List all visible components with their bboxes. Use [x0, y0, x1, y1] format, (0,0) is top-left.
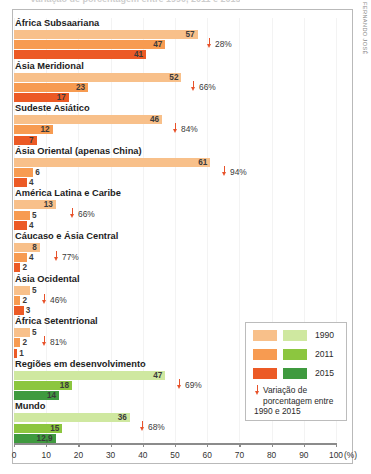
bar-value-label: 8 [32, 243, 37, 252]
delta-annotation: 66% [69, 208, 95, 220]
delta-annotation: 94% [221, 166, 247, 178]
bar [14, 263, 20, 272]
down-arrow-icon [206, 38, 213, 49]
chart-group: Ásia Ocidental52346% [0, 274, 371, 317]
bar-value-label: 46 [150, 115, 159, 124]
bar-value-label: 18 [60, 381, 69, 390]
group-label: Ásia Ocidental [15, 274, 80, 284]
bar-value-label: 5 [32, 286, 37, 295]
axis-tick [336, 443, 337, 447]
axis-tick-label: 30 [106, 450, 115, 460]
bar [14, 338, 20, 347]
axis-tick-label: 100 [329, 450, 343, 460]
delta-annotation: 84% [172, 123, 198, 135]
down-arrow-icon [41, 294, 48, 305]
axis-tick [46, 443, 47, 447]
delta-annotation: 77% [53, 251, 79, 263]
delta-annotation: 69% [176, 379, 202, 391]
down-arrow-icon [41, 336, 48, 347]
group-label: América Latina e Caribe [15, 188, 121, 198]
bar-value-label: 12,9 [37, 434, 53, 443]
bar [14, 168, 33, 177]
bar-value-label: 4 [29, 221, 34, 230]
bar [14, 221, 27, 230]
bar-value-label: 2 [22, 263, 27, 272]
chart-group: Sudeste Asiático4612784% [0, 103, 371, 146]
delta-value: 28% [215, 39, 232, 49]
bar-value-label: 17 [57, 93, 66, 102]
bar [14, 115, 162, 124]
axis-tick [304, 443, 305, 447]
delta-value: 81% [50, 337, 67, 347]
bar-value-label: 41 [134, 50, 143, 59]
legend-swatch-green [283, 330, 307, 341]
axis-tick-label: 50 [170, 450, 179, 460]
bar-value-label: 4 [29, 253, 34, 262]
bar-value-label: 6 [35, 168, 40, 177]
axis-tick-label: 40 [138, 450, 147, 460]
bar [14, 30, 198, 39]
legend-label: 2011 [315, 349, 333, 360]
legend-swatch-green [283, 368, 307, 379]
down-arrow-icon [176, 379, 183, 390]
bar [14, 40, 165, 49]
delta-annotation: 68% [139, 421, 165, 433]
delta-value: 66% [78, 209, 95, 219]
down-arrow-icon [139, 421, 146, 432]
bar-value-label: 15 [50, 424, 59, 433]
axis-tick-label: 70 [235, 450, 244, 460]
bar [14, 306, 24, 315]
chart-group: Ásia Oriental (apenas China)616494% [0, 146, 371, 189]
axis-tick [272, 443, 273, 447]
down-arrow-icon [190, 81, 197, 92]
bar-value-label: 52 [169, 73, 178, 82]
delta-value: 94% [230, 167, 247, 177]
delta-annotation: 81% [41, 336, 67, 348]
bar-value-label: 7 [29, 136, 34, 145]
axis-tick [78, 443, 79, 447]
axis-tick [143, 443, 144, 447]
group-label: Regiões em desenvolvimento [15, 359, 146, 369]
axis-tick-label: 60 [203, 450, 212, 460]
delta-value: 69% [185, 380, 202, 390]
legend-swatch-orange [253, 330, 277, 341]
delta-value: 68% [148, 422, 165, 432]
bar-value-label: 14 [47, 391, 56, 400]
group-label: Cáucaso e Ásia Central [15, 231, 118, 241]
bar [14, 158, 210, 167]
axis-tick-label: 10 [42, 450, 51, 460]
delta-value: 84% [181, 124, 198, 134]
bar-value-label: 1 [19, 349, 24, 358]
bar-value-label: 13 [44, 200, 53, 209]
delta-annotation: 66% [190, 81, 216, 93]
delta-value: 46% [50, 295, 67, 305]
group-label: Ásia Meridional [15, 61, 84, 71]
bar [14, 178, 27, 187]
bar [14, 50, 146, 59]
chart-legend: 199020112015Variação de porcentagem entr… [245, 322, 347, 421]
legend-note-text: Variação de porcentagem entre 1990 e 201… [254, 385, 333, 416]
legend-swatch-orange [253, 368, 277, 379]
legend-label: 1990 [315, 330, 334, 341]
down-arrow-icon [254, 385, 261, 396]
bar-value-label: 3 [26, 306, 31, 315]
axis-tick-label: 0 [12, 450, 17, 460]
bar [14, 328, 30, 337]
bar-value-label: 61 [198, 158, 207, 167]
bar [14, 349, 17, 358]
axis-tick [14, 443, 15, 447]
axis-tick-label: 20 [74, 450, 83, 460]
legend-note: Variação de porcentagem entre 1990 e 201… [254, 385, 346, 417]
down-arrow-icon [53, 251, 60, 262]
down-arrow-icon [172, 123, 179, 134]
delta-value: 77% [62, 252, 79, 262]
bar [14, 211, 30, 220]
bar [14, 253, 27, 262]
down-arrow-icon [69, 208, 76, 219]
chart-group: Cáucaso e Ásia Central84277% [0, 231, 371, 274]
delta-annotation: 28% [206, 38, 232, 50]
bar [14, 296, 20, 305]
down-arrow-icon [221, 166, 228, 177]
bar-value-label: 4 [29, 178, 34, 187]
legend-swatch-orange [253, 349, 277, 360]
